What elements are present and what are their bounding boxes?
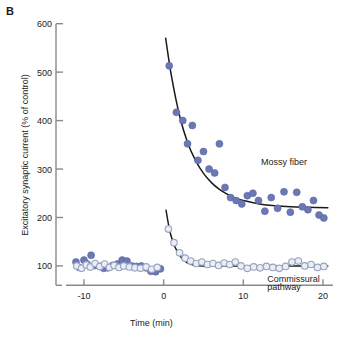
data-point <box>216 140 223 147</box>
y-axis-tick-label: 100 <box>37 261 52 271</box>
x-axis-tick-label: 20 <box>318 291 328 301</box>
x-axis-label: Time (min) <box>130 318 173 328</box>
data-point <box>222 184 229 191</box>
series-annotation-label: pathway <box>267 282 301 292</box>
data-point <box>250 264 257 271</box>
x-axis-tick-label: 0 <box>161 291 166 301</box>
data-point <box>301 263 308 270</box>
data-point <box>276 265 283 272</box>
data-point <box>255 197 262 204</box>
data-point <box>194 157 201 164</box>
data-point <box>268 194 275 201</box>
data-point <box>238 263 245 270</box>
data-point <box>314 264 321 271</box>
data-point <box>320 214 327 221</box>
data-point <box>171 239 178 246</box>
y-axis-tick-label: 500 <box>37 68 52 78</box>
data-point <box>154 264 161 271</box>
y-axis-label: Excitatory synaptic current (% of contro… <box>20 45 30 265</box>
y-axis-tick-label: 400 <box>37 116 52 126</box>
data-point <box>179 117 186 124</box>
data-point <box>270 264 277 271</box>
data-point <box>244 265 251 272</box>
data-point <box>280 188 287 195</box>
data-point <box>189 122 196 129</box>
data-point <box>238 200 245 207</box>
data-point <box>249 190 256 197</box>
data-point <box>287 209 294 216</box>
data-point <box>282 263 289 270</box>
data-point <box>263 263 270 270</box>
data-point <box>295 258 302 265</box>
data-point <box>293 189 300 196</box>
data-point <box>257 265 264 272</box>
x-axis-tick-label: 10 <box>238 291 248 301</box>
data-point <box>200 148 207 155</box>
data-point <box>88 252 95 259</box>
data-point <box>310 197 317 204</box>
figure-panel-b: B Excitatory synaptic current (% of cont… <box>0 0 342 340</box>
data-point <box>321 263 328 270</box>
fit-curve-layer <box>166 38 328 266</box>
data-point <box>304 206 311 213</box>
data-point <box>274 205 281 212</box>
y-axis-tick-label: 600 <box>37 19 52 29</box>
data-point <box>261 208 268 215</box>
data-point <box>289 259 296 266</box>
data-point <box>184 140 191 147</box>
series-annotation-label: Mossy fiber <box>261 157 307 167</box>
data-point <box>166 62 173 69</box>
y-axis-tick-label: 300 <box>37 165 52 175</box>
data-point <box>165 226 172 233</box>
data-point <box>211 169 218 176</box>
data-point <box>308 261 315 268</box>
panel-letter: B <box>6 5 14 17</box>
y-axis-tick-label: 200 <box>37 213 52 223</box>
data-point <box>173 109 180 116</box>
data-point <box>176 250 183 257</box>
x-axis-tick-label: -10 <box>77 291 90 301</box>
